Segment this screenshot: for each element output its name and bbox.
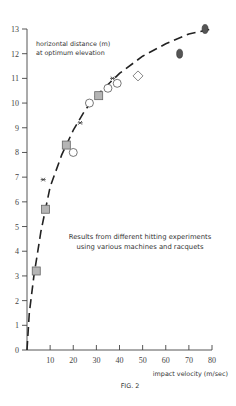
x-tick-label: 40: [116, 356, 124, 365]
oval-marker: [177, 49, 183, 58]
dashed-fit-line: [27, 29, 212, 350]
y-tick-label: 10: [11, 99, 19, 108]
y-tick-label: 11: [11, 74, 19, 83]
y-tick-label: 3: [15, 272, 19, 281]
y-tick-label: 1: [15, 321, 19, 330]
circle-marker: [85, 99, 93, 107]
y-tick-label: 9: [15, 124, 19, 133]
scatter-chart: 012345678910111213 1020304050607080 hori…: [0, 0, 236, 406]
square-marker: [62, 141, 70, 149]
asterisk-marker: [41, 178, 46, 182]
y-axis-label-line1: horizontal distance (m): [36, 40, 110, 48]
x-tick-label: 50: [139, 356, 147, 365]
y-tick-label: 0: [15, 346, 19, 355]
x-tick-label: 80: [208, 356, 216, 365]
y-tick-label: 5: [15, 223, 19, 232]
y-tick-label: 2: [15, 297, 19, 306]
square-marker: [32, 267, 40, 275]
y-tick-label: 6: [15, 198, 19, 207]
y-tick-label: 4: [15, 247, 19, 256]
y-tick-label: 7: [15, 173, 19, 182]
y-ticks: 012345678910111213: [11, 25, 27, 355]
square-marker: [42, 205, 50, 213]
asterisk-marker: [110, 77, 115, 81]
y-axis-label-line2: at optimum elevation: [36, 49, 105, 57]
annotation-line1: Results from different hitting experimen…: [69, 233, 212, 241]
y-tick-label: 8: [15, 148, 19, 157]
fitted-curve: [27, 29, 212, 350]
axes: [27, 29, 212, 350]
x-tick-label: 70: [185, 356, 193, 365]
x-tick-label: 60: [162, 356, 170, 365]
x-axis-label: impact velocity (m/sec): [153, 370, 228, 378]
square-marker: [95, 92, 103, 100]
figure-caption: FIG. 2: [121, 382, 140, 390]
diamond-marker: [133, 71, 143, 81]
circle-marker: [69, 148, 77, 156]
y-tick-label: 12: [11, 50, 19, 59]
y-tick-label: 13: [11, 25, 19, 34]
x-tick-label: 30: [92, 356, 100, 365]
x-tick-label: 20: [69, 356, 77, 365]
oval-marker: [202, 25, 208, 34]
circle-marker: [104, 84, 112, 92]
x-ticks: 1020304050607080: [46, 345, 216, 365]
circle-marker: [113, 79, 121, 87]
asterisk-marker: [78, 121, 83, 125]
x-tick-label: 10: [46, 356, 54, 365]
annotation-line2: using various machines and racquets: [76, 243, 204, 251]
